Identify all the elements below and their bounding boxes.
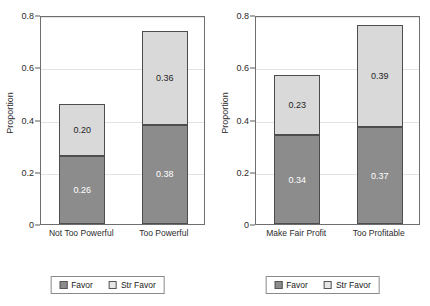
legend-entry-str-favor: Str Favor	[109, 280, 156, 290]
bars-profit: 0.340.230.370.39	[256, 17, 419, 224]
y-tick-label: 0.6	[21, 63, 34, 73]
x-axis-category-label: Make Fair Profit	[266, 228, 326, 238]
bar-segment-str-favor[interactable]: 0.23	[274, 75, 320, 135]
bar-segment-favor[interactable]: 0.26	[59, 156, 105, 224]
legend-label-favor: Favor	[286, 280, 308, 290]
legend-swatch-favor-icon	[59, 281, 67, 289]
y-tick-label: 0.8	[236, 11, 249, 21]
bar-segment-str-favor[interactable]: 0.36	[142, 31, 188, 125]
bar-segment-str-favor[interactable]: 0.20	[59, 104, 105, 156]
x-axis-category-label: Too Profitable	[353, 228, 405, 238]
stacked-bar[interactable]: 0.370.39	[357, 25, 403, 224]
plot-area-power: 0.260.200.380.36	[40, 16, 205, 225]
chart-panel-profit: Proportion 00.20.40.60.8 0.340.230.370.3…	[215, 0, 430, 306]
bars-power: 0.260.200.380.36	[41, 17, 204, 224]
y-tick-label: 0.4	[21, 116, 34, 126]
bar-segment-favor[interactable]: 0.38	[142, 125, 188, 224]
bar-segment-favor[interactable]: 0.37	[357, 127, 403, 224]
legend-entry-str-favor: Str Favor	[324, 280, 371, 290]
stacked-bar-chart-figure: Proportion 00.20.40.60.8 0.260.200.380.3…	[0, 0, 430, 306]
chart-panel-power: Proportion 00.20.40.60.8 0.260.200.380.3…	[0, 0, 215, 306]
legend-label-favor: Favor	[71, 280, 93, 290]
x-axis-category-label: Not Too Powerful	[49, 228, 114, 238]
bar-segment-str-favor[interactable]: 0.39	[357, 25, 403, 127]
legend-entry-favor: Favor	[274, 280, 308, 290]
legend-power: Favor Str Favor	[50, 276, 165, 294]
stacked-bar[interactable]: 0.340.23	[274, 75, 320, 224]
legend-swatch-str-favor-icon	[109, 281, 117, 289]
plot-area-profit: 0.340.230.370.39	[255, 16, 420, 225]
y-tick-label: 0.2	[236, 168, 249, 178]
stacked-bar[interactable]: 0.380.36	[142, 31, 188, 224]
y-tick-label: 0.8	[21, 11, 34, 21]
y-tick-label: 0	[244, 220, 249, 230]
legend-entry-favor: Favor	[59, 280, 93, 290]
bar-segment-favor[interactable]: 0.34	[274, 135, 320, 224]
y-axis-ticks-right: 00.20.40.60.8	[231, 16, 255, 225]
legend-swatch-favor-icon	[274, 281, 282, 289]
legend-swatch-str-favor-icon	[324, 281, 332, 289]
legend-label-str-favor: Str Favor	[336, 280, 371, 290]
legend-label-str-favor: Str Favor	[121, 280, 156, 290]
y-tick-label: 0.4	[236, 116, 249, 126]
y-tick-label: 0	[29, 220, 34, 230]
legend-profit: Favor Str Favor	[265, 276, 380, 294]
y-tick-label: 0.6	[236, 63, 249, 73]
x-axis-category-label: Too Powerful	[139, 228, 188, 238]
stacked-bar[interactable]: 0.260.20	[59, 104, 105, 224]
y-tick-label: 0.2	[21, 168, 34, 178]
x-axis-labels-profit: Make Fair ProfitToo Profitable	[255, 228, 420, 246]
y-axis-ticks-left: 00.20.40.60.8	[16, 16, 40, 225]
x-axis-labels-power: Not Too PowerfulToo Powerful	[40, 228, 205, 246]
